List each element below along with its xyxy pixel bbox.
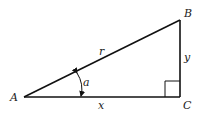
side-label-y: y	[183, 51, 191, 64]
right-angle-marker	[165, 81, 180, 97]
angle-arc	[77, 73, 82, 96]
side-hypotenuse	[24, 20, 180, 97]
vertex-label-b: B	[183, 7, 192, 20]
vertex-label-c: C	[183, 99, 192, 112]
side-label-r: r	[99, 45, 105, 58]
side-label-x: x	[98, 99, 105, 112]
right-triangle-diagram: A B C r x y a	[0, 0, 199, 114]
vertex-label-a: A	[9, 91, 18, 104]
angle-label-a: a	[83, 76, 90, 89]
